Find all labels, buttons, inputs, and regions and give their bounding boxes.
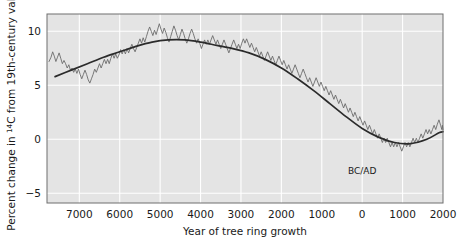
x-axis-tick-label: 2000 [430, 208, 457, 220]
chart-figure: 7000600050004000300020001000010002000 10… [0, 0, 463, 247]
x-axis-title: Year of tree ring growth [182, 225, 307, 237]
x-axis-tick-label: 1000 [389, 208, 416, 220]
y-axis-title: Percent change in 14C from 19th-century … [5, 0, 17, 231]
y-axis-tick-label: 5 [34, 79, 41, 91]
tree-ring-c14-chart: 7000600050004000300020001000010002000 10… [0, 0, 463, 247]
x-axis-tick-label: 5000 [147, 208, 174, 220]
y-axis-title-element: C [5, 117, 17, 124]
y-axis-title-superscript: 14 [5, 123, 14, 133]
x-axis-tick-label: 4000 [187, 208, 214, 220]
y-axis-tick-label: −5 [26, 187, 41, 199]
y-axis-title-tail: from 19th-century value [5, 0, 17, 117]
y-axis-title-lead: Percent change in [5, 133, 17, 231]
x-axis-tick-label: 1000 [308, 208, 335, 220]
bc-ad-divider: BC/AD [348, 166, 376, 176]
x-axis-tick-label: 0 [359, 208, 366, 220]
chart-annotations: BC/AD [348, 166, 376, 176]
x-axis-tick-label: 7000 [66, 208, 93, 220]
x-axis-tick-label: 2000 [268, 208, 295, 220]
x-axis-tick-label: 3000 [228, 208, 255, 220]
y-axis-tick-label: 10 [28, 25, 41, 37]
x-axis-tick-label: 6000 [106, 208, 133, 220]
y-axis-tick-label: 0 [34, 133, 41, 145]
